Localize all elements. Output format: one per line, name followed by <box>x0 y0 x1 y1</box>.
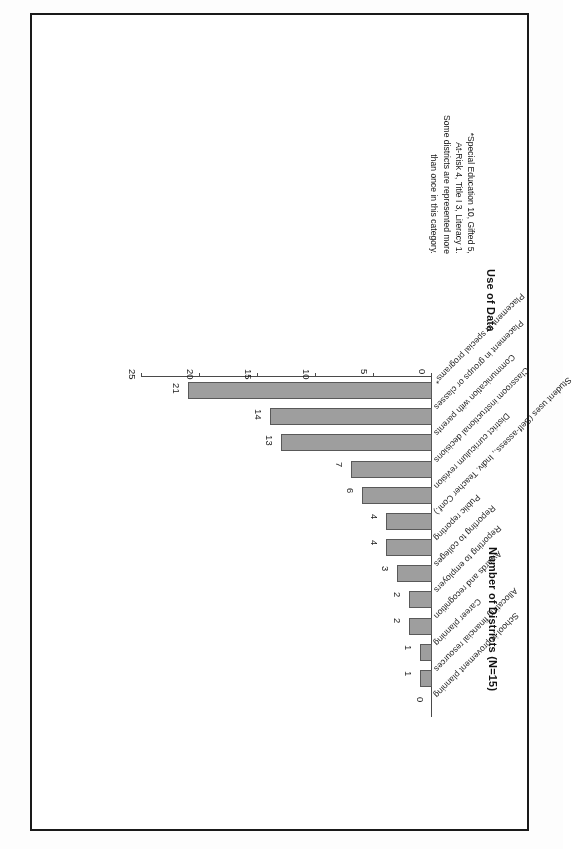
tick-mark <box>431 373 432 377</box>
tick-mark <box>141 373 142 377</box>
bar-value-label: 6 <box>345 488 356 494</box>
bar-value-label: 3 <box>380 566 391 572</box>
bar <box>409 591 432 608</box>
bar <box>397 565 432 582</box>
bar-row: 13 <box>142 429 432 455</box>
footnote-line: *Special Education 10, Gifted 5, <box>465 94 477 254</box>
tick-label: 0 <box>417 369 428 374</box>
footnote-line: At-Risk 4, Title I 3, Literacy 1. <box>453 94 465 254</box>
category-label: Placement in special programs* <box>432 291 527 386</box>
bar-row: 14 <box>142 403 432 429</box>
bar-value-label: 4 <box>369 514 380 520</box>
bar-value-label: 0 <box>415 697 426 703</box>
bar-row: 4 <box>142 534 432 560</box>
bar <box>351 461 432 478</box>
plot-area: 2114137644322110 0510152025 <box>142 377 432 717</box>
tick-mark <box>373 373 374 377</box>
bar-chart-figure: 2114137644322110 0510152025 Placement in… <box>32 15 527 829</box>
bar <box>270 408 432 425</box>
bar <box>409 618 432 635</box>
footnote-line: Some districts are represented more <box>440 94 452 254</box>
tick-label: 15 <box>243 369 254 380</box>
tick-label: 10 <box>301 369 312 380</box>
bar-value-label: 13 <box>264 435 275 446</box>
tick-label: 5 <box>359 369 370 374</box>
bar-row: 7 <box>142 455 432 481</box>
bar-value-label: 2 <box>392 618 403 624</box>
bar-row: 2 <box>142 586 432 612</box>
tick-mark <box>257 373 258 377</box>
footnote-text: *Special Education 10, Gifted 5,At-Risk … <box>428 94 477 254</box>
bar <box>386 539 432 556</box>
bar <box>188 382 432 399</box>
bar-row: 1 <box>142 639 432 665</box>
bar-row: 3 <box>142 560 432 586</box>
bar <box>386 513 432 530</box>
tick-mark <box>315 373 316 377</box>
tick-label: 25 <box>127 369 138 380</box>
y-axis-title: Number of Districts (N=15) <box>487 547 499 691</box>
tick-label: 20 <box>185 369 196 380</box>
bar <box>362 487 432 504</box>
bar <box>420 644 432 661</box>
footnote-line: than once in this category. <box>428 94 440 254</box>
bar-row: 1 <box>142 665 432 691</box>
bar-row: 21 <box>142 377 432 403</box>
bar-value-label: 1 <box>403 671 414 677</box>
figure-rotated-180: 2114137644322110 0510152025 Placement in… <box>32 15 527 829</box>
bar-value-label: 7 <box>334 462 345 468</box>
bar-value-label: 4 <box>369 540 380 546</box>
bar-row: 4 <box>142 508 432 534</box>
bar <box>420 670 432 687</box>
bar-value-label: 1 <box>403 645 414 651</box>
bar-value-label: 2 <box>392 592 403 598</box>
bar-value-label: 21 <box>171 383 182 394</box>
bar-row: 2 <box>142 612 432 638</box>
x-axis-title: Use of Data <box>485 269 497 332</box>
bar-value-label: 14 <box>253 409 264 420</box>
bar-row: 0 <box>142 691 432 717</box>
bar-row: 6 <box>142 482 432 508</box>
bar <box>281 434 432 451</box>
tick-mark <box>199 373 200 377</box>
